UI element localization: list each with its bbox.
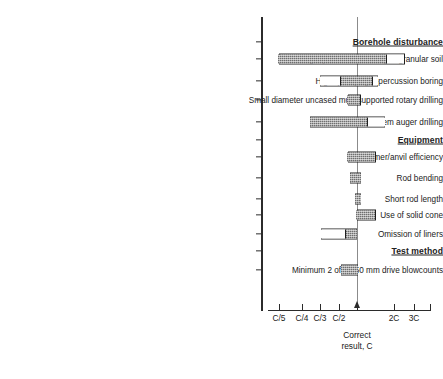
- axis-tick-mark: [256, 250, 262, 251]
- x-axis-tick-mark: [394, 304, 395, 311]
- correct-result-caption: Correct result, C: [341, 330, 372, 351]
- range-bar-segment-white: [386, 55, 404, 64]
- x-axis-tick-label: C/3: [313, 313, 326, 323]
- category-label: Omission of liners: [191, 230, 443, 239]
- range-bar: [321, 229, 357, 240]
- range-bar-segment-white: [367, 118, 385, 127]
- range-bar: [341, 265, 358, 276]
- range-bar: [279, 54, 405, 65]
- axis-tick-mark: [256, 156, 262, 157]
- x-axis-tick-mark: [339, 304, 340, 311]
- x-axis-tick-mark: [430, 304, 431, 311]
- spt-error-chart: Correct result, C Borehole disturbanceLi…: [0, 0, 443, 379]
- axis-tick-mark: [256, 233, 262, 234]
- axis-tick-mark: [256, 58, 262, 59]
- range-bar-segment-shaded: [340, 77, 372, 86]
- correct-result-caption-line2: result, C: [341, 341, 372, 352]
- x-axis-tick-label: C/4: [295, 313, 308, 323]
- range-bar-segment-white: [320, 77, 340, 86]
- category-label: Hammer/anvil efficiency: [191, 153, 443, 162]
- range-bar-segment-shaded: [345, 230, 357, 239]
- range-bar: [310, 117, 385, 128]
- axis-tick-mark: [256, 139, 262, 140]
- x-axis-tick-mark: [302, 304, 303, 311]
- range-bar: [348, 95, 361, 106]
- range-bar: [348, 152, 376, 163]
- range-bar: [357, 210, 376, 221]
- x-axis-tick-mark: [414, 304, 415, 311]
- axis-tick-mark: [256, 121, 262, 122]
- category-label: High quality light-percussion boring: [191, 77, 443, 86]
- axis-tick-mark: [256, 198, 262, 199]
- category-label: Use of solid cone: [191, 211, 443, 220]
- range-bar-segment-shaded: [341, 266, 358, 275]
- category-label: Short rod length: [191, 195, 443, 204]
- x-axis-tick-label: 3C: [409, 313, 420, 323]
- x-axis-tick-label: 2C: [389, 313, 400, 323]
- x-axis-tick-label: C/5: [272, 313, 285, 323]
- range-bar-segment-shaded: [356, 211, 375, 220]
- range-bar-segment-shaded: [310, 118, 367, 127]
- axis-tick-mark: [256, 177, 262, 178]
- x-axis-tick-mark: [357, 304, 358, 311]
- axis-tick-mark: [256, 269, 262, 270]
- group-heading: Borehole disturbance: [191, 38, 443, 47]
- range-bar-segment-shaded: [350, 174, 361, 183]
- range-bar: [355, 194, 361, 205]
- category-label: Minimum 2 of 3 150 mm drive blowcounts: [191, 266, 443, 275]
- category-label: Small diameter uncased mud-supported rot…: [191, 96, 443, 105]
- axis-tick-mark: [256, 80, 262, 81]
- range-bar-segment-white: [372, 77, 378, 86]
- category-label: Rod bending: [191, 174, 443, 183]
- range-bar-segment-white: [321, 230, 345, 239]
- range-bar-segment-shaded: [347, 153, 375, 162]
- range-bar: [320, 76, 378, 87]
- x-axis-tick-mark: [320, 304, 321, 311]
- axis-tick-mark: [256, 41, 262, 42]
- range-bar-segment-shaded: [355, 195, 361, 204]
- group-heading: Test method: [191, 247, 443, 256]
- axis-tick-mark: [256, 99, 262, 100]
- horizontal-axis: [268, 310, 431, 311]
- x-axis-tick-label: C/2: [332, 313, 345, 323]
- range-bar: [350, 173, 361, 184]
- x-axis-tick-mark: [279, 304, 280, 311]
- group-heading: Equipment: [191, 136, 443, 145]
- range-bar-segment-shaded: [347, 96, 360, 105]
- axis-tick-mark: [256, 214, 262, 215]
- correct-result-caption-line1: Correct: [341, 330, 372, 341]
- range-bar-segment-shaded: [278, 55, 386, 64]
